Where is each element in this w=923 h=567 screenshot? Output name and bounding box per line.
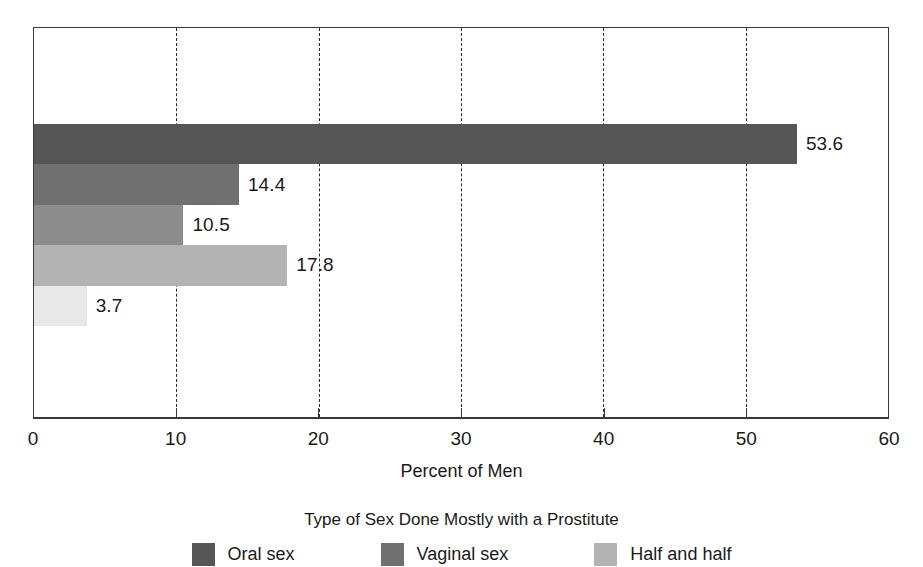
x-tick-label-20: 20 bbox=[308, 428, 329, 450]
bar bbox=[34, 205, 183, 245]
bar-value-label: 14.4 bbox=[239, 174, 285, 196]
bar bbox=[34, 164, 239, 204]
bar-row: 17.8 bbox=[34, 245, 888, 285]
bar bbox=[34, 286, 87, 326]
x-tick-label-10: 10 bbox=[165, 428, 186, 450]
bar-value-label: 10.5 bbox=[183, 214, 229, 236]
x-tick-30 bbox=[461, 408, 462, 418]
x-tick-label-60: 60 bbox=[878, 428, 899, 450]
x-tick-40 bbox=[604, 408, 605, 418]
x-tick-label-0: 0 bbox=[28, 428, 39, 450]
legend-item[interactable]: Oral sex bbox=[192, 543, 295, 566]
x-tick-50 bbox=[746, 408, 747, 418]
x-tick-label-50: 50 bbox=[736, 428, 757, 450]
bar-value-label: 53.6 bbox=[797, 133, 843, 155]
x-tick-label-40: 40 bbox=[593, 428, 614, 450]
legend-item[interactable]: Vaginal sex bbox=[381, 543, 509, 566]
legend-swatch-icon bbox=[594, 543, 617, 566]
legend-swatch-icon bbox=[192, 543, 215, 566]
bar-row: 53.6 bbox=[34, 124, 888, 164]
bar-value-label: 17.8 bbox=[287, 254, 333, 276]
x-tick-20 bbox=[318, 408, 319, 418]
bar bbox=[34, 124, 797, 164]
x-tick-label-30: 30 bbox=[450, 428, 471, 450]
legend-label: Vaginal sex bbox=[417, 544, 509, 565]
legend-item[interactable]: Half and half bbox=[594, 543, 731, 566]
bar-chart-figure: 53.614.410.517.83.7 0102030405060 Percen… bbox=[0, 0, 923, 567]
x-axis: 0102030405060 bbox=[33, 418, 889, 419]
legend-label: Half and half bbox=[630, 544, 731, 565]
x-axis-title: Percent of Men bbox=[0, 461, 923, 482]
bar-series: 53.614.410.517.83.7 bbox=[34, 124, 888, 326]
legend-swatch-icon bbox=[381, 543, 404, 566]
bar-row: 14.4 bbox=[34, 164, 888, 204]
x-tick-10 bbox=[176, 408, 177, 418]
legend-label: Oral sex bbox=[228, 544, 295, 565]
bar bbox=[34, 245, 287, 285]
bar-row: 10.5 bbox=[34, 205, 888, 245]
legend: Oral sexVaginal sexHalf and half bbox=[0, 543, 923, 566]
plot-area: 53.614.410.517.83.7 bbox=[33, 27, 889, 418]
bar-row: 3.7 bbox=[34, 286, 888, 326]
bar-value-label: 3.7 bbox=[87, 295, 123, 317]
legend-title: Type of Sex Done Mostly with a Prostitut… bbox=[0, 510, 923, 530]
